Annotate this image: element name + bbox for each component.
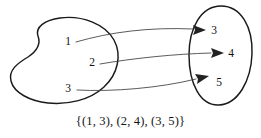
relation-set-caption: {(1, 3), (2, 4), (3, 5)} xyxy=(0,114,261,129)
codomain-element-5: 5 xyxy=(216,76,222,88)
arrow-2-to-4-line xyxy=(100,53,211,64)
arrow-1-to-3-head xyxy=(193,25,206,35)
arrow-3-to-5-line xyxy=(77,79,196,91)
domain-element-2: 2 xyxy=(89,56,95,68)
domain-element-3: 3 xyxy=(65,82,71,94)
codomain-oval-outline xyxy=(189,6,252,105)
codomain-element-4: 4 xyxy=(228,47,234,59)
arrow-3-to-5-head xyxy=(195,74,209,84)
relation-diagram-figure: 1 2 3 3 4 5 {(1, 3), (2, 4), (3, 5)} xyxy=(0,0,261,138)
arrow-1-to-3-line xyxy=(76,29,193,42)
domain-element-1: 1 xyxy=(65,35,71,47)
arrow-2-to-4-head xyxy=(211,48,224,58)
codomain-element-3: 3 xyxy=(211,24,217,36)
